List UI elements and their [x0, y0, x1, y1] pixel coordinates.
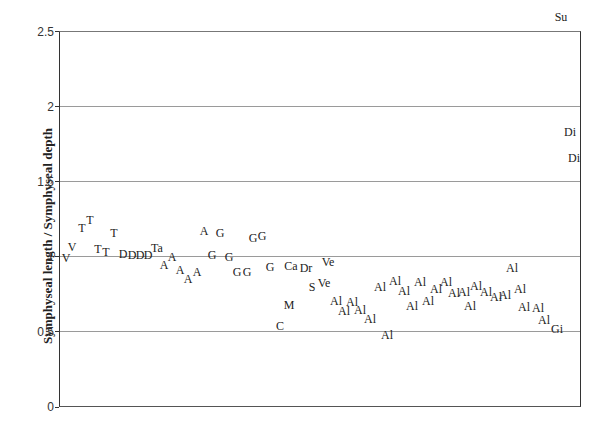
data-point-label: Al — [538, 314, 550, 326]
data-point-label: G — [216, 227, 225, 239]
data-point-label: T — [86, 214, 93, 226]
data-point-label: Dr — [300, 262, 313, 274]
data-point-label: Su — [555, 11, 568, 23]
y-axis-label: Symphyseal length / Symphyseal depth — [40, 116, 56, 356]
data-point-label: Gi — [551, 323, 563, 335]
y-tick-1.5: 1.5 — [0, 176, 54, 188]
data-point-label: S — [309, 281, 316, 293]
y-tick-2: 2 — [0, 101, 54, 113]
y-tick-0: 0 — [0, 401, 54, 413]
data-point-label: A — [168, 251, 177, 263]
data-point-label: G — [266, 261, 275, 273]
y-tick-0.5: 0.5 — [0, 326, 54, 338]
data-point-label: V — [68, 241, 77, 253]
data-point-label: A — [184, 273, 193, 285]
data-point-label: A — [200, 225, 209, 237]
data-point-label: G — [249, 232, 258, 244]
data-point-label: G — [225, 251, 234, 263]
data-point-label: C — [276, 320, 284, 332]
data-point-label: D — [119, 248, 128, 260]
data-point-label: Al — [422, 295, 434, 307]
data-point-label: G — [208, 249, 217, 261]
data-point-label: Ve — [322, 256, 335, 268]
data-point-label: Al — [374, 281, 386, 293]
data-point-label: G — [258, 230, 267, 242]
y-tick-2.5: 2.5 — [0, 26, 54, 38]
data-point-label: T — [78, 222, 85, 234]
data-point-label: Al — [414, 276, 426, 288]
data-point-label: A — [193, 266, 202, 278]
data-point-label: Al — [458, 286, 470, 298]
data-point-label: Al — [499, 289, 511, 301]
data-point-label: G — [243, 266, 252, 278]
data-point-label: Al — [518, 301, 530, 313]
data-point-label: Di — [564, 126, 576, 138]
data-point-label: T — [110, 227, 117, 239]
data-point-label: Al — [364, 313, 376, 325]
y-tick-mark — [55, 407, 59, 408]
plot-area — [59, 31, 581, 407]
data-point-label: Al — [506, 262, 518, 274]
data-point-label: Di — [568, 152, 580, 164]
data-point-label: Ta — [151, 242, 163, 254]
data-point-label: G — [233, 266, 242, 278]
data-point-label: T — [102, 246, 109, 258]
data-point-label: Al — [514, 283, 526, 295]
data-point-label: Al — [406, 300, 418, 312]
data-point-label: Al — [381, 329, 393, 341]
data-point-label: M — [284, 299, 295, 311]
data-point-label: Al — [398, 285, 410, 297]
data-point-label: Al — [464, 300, 476, 312]
data-point-label: Ve — [318, 277, 331, 289]
data-point-label: Ca — [284, 260, 297, 272]
scatter-chart: Symphyseal length / Symphyseal depth 2.5… — [0, 0, 613, 431]
data-point-label: T — [94, 243, 101, 255]
y-tick-1: 1 — [0, 251, 54, 263]
